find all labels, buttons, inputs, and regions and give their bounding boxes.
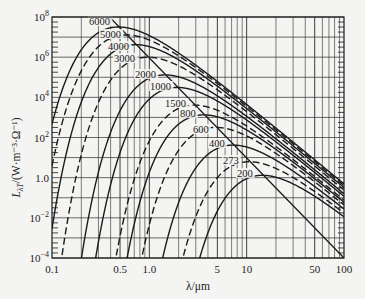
curve-200K bbox=[190, 175, 344, 296]
planck-curves bbox=[52, 27, 344, 297]
y-tick-label: 106 bbox=[34, 49, 49, 63]
grid bbox=[52, 17, 344, 258]
axis-tick-labels: 0.10.51.0510501001081061041021.010−210−4 bbox=[29, 9, 352, 275]
blackbody-radiation-chart: 6000500040003000200010001500800600400273… bbox=[0, 0, 365, 299]
y-tick-label: 108 bbox=[34, 9, 49, 23]
curve-4000K bbox=[52, 45, 344, 229]
y-tick-label: 102 bbox=[34, 130, 49, 144]
curve-label-273: 273 bbox=[223, 155, 239, 166]
y-tick-label: 10−4 bbox=[29, 250, 49, 264]
curve-label-1000: 1000 bbox=[150, 81, 171, 92]
curve-label-200: 200 bbox=[237, 168, 253, 179]
y-tick-label: 10−2 bbox=[29, 210, 49, 224]
y-axis-title: LλT/(W·m⁻³·Ω⁻¹) bbox=[10, 117, 25, 198]
y-tick-label: 104 bbox=[34, 89, 49, 103]
x-tick-label: 1.0 bbox=[142, 263, 156, 275]
x-axis-title: λ/μm bbox=[186, 280, 210, 293]
y-tick-label: 1.0 bbox=[35, 172, 49, 184]
curve-label-400: 400 bbox=[209, 138, 225, 149]
curve-label-600: 600 bbox=[193, 124, 209, 135]
curve-label-5000: 5000 bbox=[100, 29, 121, 40]
curve-label-6000: 6000 bbox=[89, 16, 110, 27]
x-tick-label: 0.1 bbox=[45, 263, 59, 275]
x-tick-label: 0.5 bbox=[113, 263, 127, 275]
curve-label-4000: 4000 bbox=[108, 41, 129, 52]
x-tick-label: 5 bbox=[215, 263, 221, 275]
x-tick-label: 100 bbox=[336, 263, 353, 275]
curve-label-800: 800 bbox=[180, 108, 196, 119]
curve-label-2000: 2000 bbox=[135, 69, 156, 80]
curve-label-3000: 3000 bbox=[114, 53, 135, 64]
x-tick-label: 50 bbox=[309, 263, 321, 275]
x-tick-label: 10 bbox=[241, 263, 253, 275]
